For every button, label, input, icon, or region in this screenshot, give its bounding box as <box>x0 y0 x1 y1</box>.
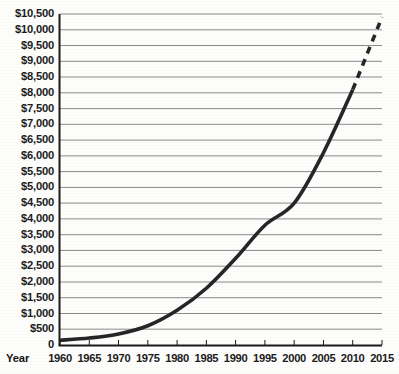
gridlines <box>60 14 382 329</box>
x-axis-tick-label: 2015 <box>362 352 399 364</box>
chart-container: 0$500$1,000$1,500$2,000$2,500$3,000$3,50… <box>0 0 399 374</box>
x-axis-ticks <box>60 340 382 345</box>
x-axis-title: Year <box>6 352 29 364</box>
series-line-actual <box>60 90 353 341</box>
data-series-layer <box>60 17 382 340</box>
chart-plot-area <box>0 0 399 374</box>
series-line-projected <box>353 17 382 90</box>
axis-lines <box>59 14 383 346</box>
